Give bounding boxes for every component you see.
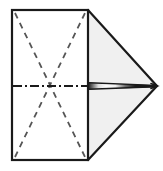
folded-paper-figure [0,0,163,171]
figure-canvas [0,0,163,171]
